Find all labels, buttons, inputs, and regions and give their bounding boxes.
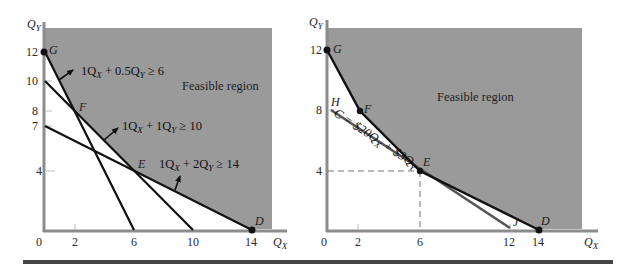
x-tick-14: 14 xyxy=(245,235,257,249)
x-tick-12: 12 xyxy=(503,235,515,249)
label-e: E xyxy=(422,155,431,169)
x-tick-14: 14 xyxy=(532,235,544,249)
label-d: D xyxy=(540,214,550,228)
x-axis-label: QX xyxy=(584,235,599,251)
left-chart: G F E D 1QX + 0.5QY ≥ 6 1QX + 1QY ≥ 10 1… xyxy=(26,17,288,251)
y-tick-10: 10 xyxy=(26,74,38,88)
x-axis-label: QX xyxy=(273,235,288,251)
y-tick-7: 7 xyxy=(32,119,38,133)
label-f: F xyxy=(78,100,87,114)
label-j: J xyxy=(513,215,519,229)
bottom-rule xyxy=(23,260,613,264)
y-tick-8: 8 xyxy=(32,104,38,118)
feasible-region-label: Feasible region xyxy=(437,90,514,104)
y-tick-12: 12 xyxy=(26,45,38,59)
x-tick-0: 0 xyxy=(36,235,42,249)
feasible-region-label: Feasible region xyxy=(182,79,259,93)
y-tick-8: 8 xyxy=(316,103,322,117)
x-tick-2: 2 xyxy=(355,235,361,249)
y-axis-label: QY xyxy=(309,15,324,31)
constraint-label-3: 1QX + 2QY ≥ 14 xyxy=(159,157,240,173)
constraint-label-1: 1QX + 0.5QY ≥ 6 xyxy=(81,64,164,80)
label-g: G xyxy=(49,43,58,57)
label-e: E xyxy=(137,157,146,171)
x-tick-6: 6 xyxy=(417,235,423,249)
figure: G F E D 1QX + 0.5QY ≥ 6 1QX + 1QY ≥ 10 1… xyxy=(0,0,625,271)
label-f: F xyxy=(363,102,372,116)
y-tick-4: 4 xyxy=(36,164,42,178)
x-tick-6: 6 xyxy=(131,235,137,249)
y-tick-4: 4 xyxy=(316,164,322,178)
point-f xyxy=(357,108,363,114)
y-tick-12: 12 xyxy=(310,43,322,57)
x-tick-10: 10 xyxy=(187,235,199,249)
x-tick-2: 2 xyxy=(72,235,78,249)
x-tick-0: 0 xyxy=(321,235,327,249)
constraint-label-2: 1QX + 1QY ≥ 10 xyxy=(122,119,202,135)
right-chart: G H F E J D C = $20QX + $3QY Feasible re… xyxy=(309,15,599,251)
label-g: G xyxy=(333,42,342,56)
point-g xyxy=(324,47,331,54)
point-g xyxy=(41,49,48,56)
label-d: D xyxy=(254,214,264,228)
y-axis-label: QY xyxy=(27,17,42,33)
